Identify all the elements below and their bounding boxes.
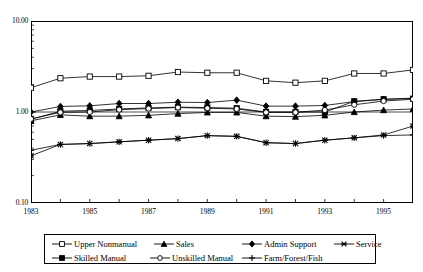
legend-label: Service [355,238,382,250]
series-service [31,123,413,158]
open-square-icon [51,238,73,250]
legend-label: Farm/Forest/Fish [263,252,323,264]
plot-area [31,21,413,203]
series-upper-nonmanual [31,67,413,90]
filled-triangle-icon [153,238,175,250]
x-tick-label: 1983 [16,207,46,216]
x-tick-label: 1989 [192,207,222,216]
chart-legend: Upper NonmanualSalesAdmin SupportService… [44,234,376,264]
legend-item-unskilled-manual[interactable]: Unskilled Manual [149,250,233,265]
legend-row-1: Upper NonmanualSalesAdmin SupportService [45,236,375,251]
legend-item-service[interactable]: Service [333,236,382,251]
chart-svg [31,21,413,203]
legend-label: Admin Support [263,238,317,250]
x-tick-label: 1993 [310,207,340,216]
legend-item-upper-nonmanual[interactable]: Upper Nonmanual [51,236,137,251]
y-tick-label: 1.00 [0,107,28,116]
filled-diamond-icon [241,238,263,250]
legend-item-sales[interactable]: Sales [153,236,194,251]
x-tick-label: 1991 [251,207,281,216]
legend-row-2: Skilled ManualUnskilled ManualFarm/Fores… [45,250,375,265]
legend-label: Unskilled Manual [171,252,233,264]
open-circle-icon [149,252,171,264]
legend-label: Skilled Manual [73,252,126,264]
y-tick-label: 0.10 [0,198,28,207]
asterisk-icon [333,238,355,250]
legend-label: Upper Nonmanual [73,238,137,250]
plus-icon [241,252,263,264]
chart-container: 10.001.000.10 19831985198719891991199319… [0,0,423,272]
legend-item-admin-support[interactable]: Admin Support [241,236,317,251]
y-tick-label: 10.00 [0,16,28,25]
legend-item-skilled-manual[interactable]: Skilled Manual [51,250,126,265]
x-tick-label: 1987 [134,207,164,216]
x-tick-label: 1985 [75,207,105,216]
x-tick-label: 1995 [369,207,399,216]
legend-label: Sales [175,238,194,250]
legend-item-farm-forest-fish[interactable]: Farm/Forest/Fish [241,250,323,265]
filled-square-icon [51,252,73,264]
